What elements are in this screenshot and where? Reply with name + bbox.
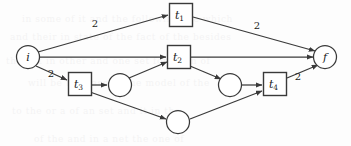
arc-t2-to-p2 <box>190 66 221 79</box>
place-p3 <box>167 111 190 134</box>
transitions-group: t1t2t3t4 <box>69 4 287 96</box>
arc-weight-w-i-t1: 2 <box>92 18 98 29</box>
place-p2 <box>219 74 242 97</box>
arc-t3-to-p3 <box>90 92 166 119</box>
arc-p1-to-t2 <box>129 62 167 78</box>
arc-weight-w-i-t3: 2 <box>48 68 54 79</box>
arc-weight-w-t1-f: 2 <box>254 20 260 31</box>
petri-net-canvas: if t1t2t3t4 2222 <box>0 0 351 146</box>
arc-i-to-t1 <box>38 15 168 52</box>
arc-t4-to-f <box>287 65 318 78</box>
place-label-i: i <box>26 51 30 64</box>
petri-net-figure: in some of it and the following the whic… <box>0 0 351 146</box>
place-p1 <box>109 74 132 97</box>
arc-weight-w-t4-f: 2 <box>295 71 301 82</box>
